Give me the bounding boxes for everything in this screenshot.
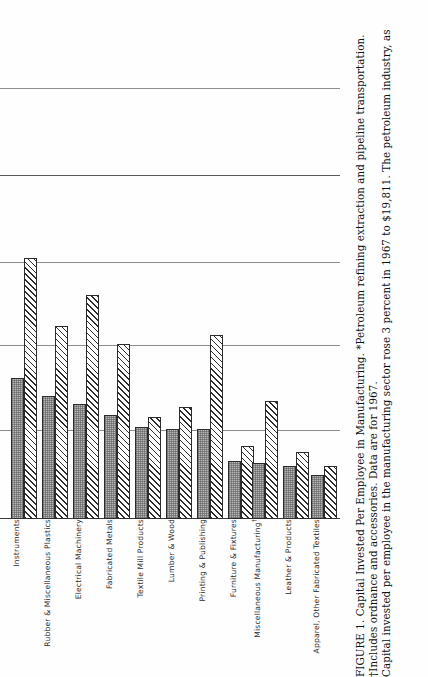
- bar-series1: [73, 404, 86, 519]
- bar-series1: [42, 396, 55, 519]
- bar-series-container: [0, 0, 340, 519]
- category-label: Instruments: [12, 519, 21, 567]
- bar-group: [104, 0, 130, 519]
- category-label: Miscellaneous Manufacturing†: [253, 519, 262, 638]
- category-label: Electrical Machinery: [74, 519, 83, 599]
- caption-line-3: Capital invested per employee in the man…: [380, 0, 392, 677]
- category-label: Printing & Publishing: [198, 519, 207, 602]
- bar-group: [166, 0, 192, 519]
- bar-series1: [11, 378, 24, 519]
- bar-group: [73, 0, 99, 519]
- bar-series2: [210, 335, 223, 519]
- bar-series2: [148, 417, 161, 519]
- caption-line-1: FIGURE 1. Capital Invested Per Employee …: [354, 0, 366, 677]
- bar-group: [11, 0, 37, 519]
- bar-series2: [296, 452, 309, 519]
- bar-group: [283, 0, 309, 519]
- bar-group: [42, 0, 68, 519]
- category-label: Fabricated Metals: [105, 519, 114, 589]
- bar-series2: [117, 344, 130, 519]
- bar-series2: [86, 295, 99, 519]
- figure-chart: InstrumentsRubber & Miscellaneous Plasti…: [0, 0, 340, 677]
- figure-caption: FIGURE 1. Capital Invested Per Employee …: [340, 0, 428, 677]
- bar-series2: [324, 466, 337, 519]
- category-label: Apparel, Other Fabricated Textiles: [312, 519, 321, 653]
- bar-series2: [265, 401, 278, 519]
- bar-series1: [166, 429, 179, 519]
- category-label: Furniture & Fixtures: [229, 519, 238, 597]
- category-axis-labels: InstrumentsRubber & Miscellaneous Plasti…: [0, 519, 340, 677]
- bar-group: [197, 0, 223, 519]
- category-label: Rubber & Miscellaneous Plastics: [43, 519, 52, 647]
- bar-series1: [135, 427, 148, 519]
- scanned-page: InstrumentsRubber & Miscellaneous Plasti…: [0, 0, 428, 677]
- bar-group: [228, 0, 254, 519]
- bar-series2: [24, 258, 37, 519]
- bar-group: [252, 0, 278, 519]
- category-label: Lumber & Wood: [167, 519, 176, 582]
- bar-series1: [228, 461, 241, 519]
- bar-group: [311, 0, 337, 519]
- bar-series1: [104, 415, 117, 519]
- bar-series1: [283, 466, 296, 519]
- bar-series1: [252, 463, 265, 519]
- category-label: Textile Mill Products: [136, 519, 145, 598]
- bar-series2: [179, 407, 192, 519]
- caption-line-2: †Includes ordnance and accessories. Data…: [367, 0, 379, 677]
- bar-series2: [55, 326, 68, 519]
- bar-series1: [311, 475, 324, 519]
- category-label: Leather & Products: [284, 519, 293, 595]
- bar-series1: [197, 429, 210, 519]
- bar-group: [135, 0, 161, 519]
